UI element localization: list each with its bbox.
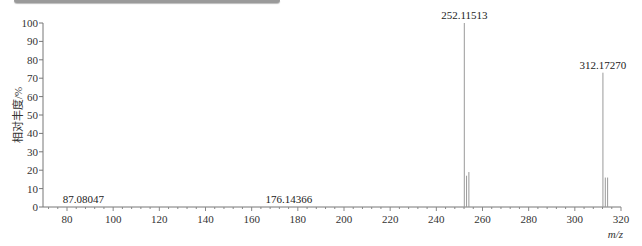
x-tick-label: 240 <box>428 213 445 225</box>
y-tick-label: 40 <box>27 127 39 139</box>
y-axis-title: 相对丰度/% <box>11 87 24 143</box>
y-tick-label: 10 <box>27 183 39 195</box>
x-tick-label: 100 <box>105 213 122 225</box>
x-tick-label: 160 <box>243 213 260 225</box>
mass-spectrum-chart: 0102030405060708090100801001201401601802… <box>0 0 642 246</box>
peak-label: 176.14366 <box>266 193 313 205</box>
x-tick-label: 120 <box>151 213 168 225</box>
x-tick-label: 140 <box>197 213 214 225</box>
x-tick-label: 180 <box>290 213 307 225</box>
y-tick-label: 90 <box>27 35 39 47</box>
y-tick-label: 70 <box>27 72 39 84</box>
y-tick-label: 100 <box>22 17 39 29</box>
x-tick-label: 280 <box>520 213 537 225</box>
y-tick-label: 0 <box>33 201 39 213</box>
y-tick-label: 50 <box>27 109 39 121</box>
y-tick-label: 20 <box>27 164 39 176</box>
x-tick-label: 320 <box>613 213 630 225</box>
x-tick-label: 200 <box>336 213 353 225</box>
x-axis-title: m/z <box>608 228 624 240</box>
x-tick-label: 260 <box>474 213 491 225</box>
x-tick-label: 220 <box>382 213 399 225</box>
y-tick-label: 80 <box>27 54 39 66</box>
peak-label: 252.11513 <box>441 9 488 21</box>
y-tick-label: 60 <box>27 91 39 103</box>
peak-label: 87.08047 <box>63 193 105 205</box>
peak-label: 312.17270 <box>580 59 627 71</box>
x-tick-label: 300 <box>567 213 584 225</box>
y-tick-label: 30 <box>27 146 39 158</box>
x-tick-label: 80 <box>62 213 74 225</box>
